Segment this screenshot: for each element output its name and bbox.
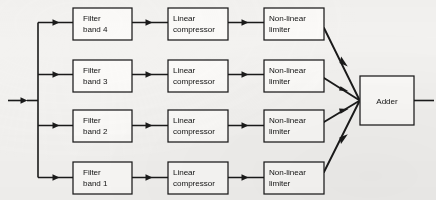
non-linear-limiter-1-label-line1: Non-linear (269, 168, 306, 177)
arrowhead-icon-row1-compressor-in (146, 174, 153, 180)
linear-compressor-3-label-line1: Linear (173, 66, 196, 75)
arrowhead-icon-row2-filter-in (53, 122, 60, 128)
filter-band-1-label-line1: Filter (83, 168, 101, 177)
arrowhead-icon-row3-compressor-in (146, 71, 153, 77)
block-filter-band-1[interactable]: Filter band 1 (73, 162, 132, 194)
block-filter-band-2[interactable]: Filter band 2 (73, 110, 132, 142)
linear-compressor-1-label-line2: compressor (173, 179, 215, 188)
arrowhead-icon-row4-adder-in (340, 56, 348, 66)
block-linear-compressor-4[interactable]: Linear compressor (168, 8, 228, 40)
arrowhead-icon-row2-compressor-in (146, 122, 153, 128)
input-signal-path (8, 23, 38, 178)
arrowhead-icon-row1-filter-in (53, 174, 60, 180)
linear-compressor-1-box[interactable] (168, 162, 228, 194)
filter-band-4-box[interactable] (73, 8, 132, 40)
linear-compressor-1-label-line1: Linear (173, 168, 196, 177)
linear-compressor-4-box[interactable] (168, 8, 228, 40)
filter-band-4-label-line2: band 4 (83, 25, 108, 34)
filter-band-3-box[interactable] (73, 60, 132, 92)
filter-band-3-label-line2: band 3 (83, 77, 108, 86)
linear-compressor-4-label-line2: compressor (173, 25, 215, 34)
block-diagram-svg: Filter band 4 Linear compressor Non-line… (0, 0, 436, 200)
linear-compressor-2-label-line2: compressor (173, 127, 215, 136)
filter-band-3-label-line1: Filter (83, 66, 101, 75)
block-non-linear-limiter-2[interactable]: Non-linear limiter (264, 110, 324, 142)
block-diagram-canvas: Filter band 4 Linear compressor Non-line… (0, 0, 436, 200)
block-non-linear-limiter-4[interactable]: Non-linear limiter (264, 8, 324, 40)
non-linear-limiter-3-label-line1: Non-linear (269, 66, 306, 75)
block-filter-band-4[interactable]: Filter band 4 (73, 8, 132, 40)
adder-label: Adder (376, 97, 398, 106)
arrowhead-icon-row4-limiter-in (242, 19, 249, 25)
arrowhead-icon-row2-limiter-in (242, 122, 249, 128)
arrowhead-icon-row4-filter-in (53, 19, 60, 25)
block-linear-compressor-1[interactable]: Linear compressor (168, 162, 228, 194)
block-filter-band-3[interactable]: Filter band 3 (73, 60, 132, 92)
non-linear-limiter-2-label-line1: Non-linear (269, 116, 306, 125)
filter-band-2-label-line1: Filter (83, 116, 101, 125)
filter-band-4-label-line1: Filter (83, 14, 101, 23)
linear-compressor-3-label-line2: compressor (173, 77, 215, 86)
arrowhead-icon-row1-adder-in (339, 134, 348, 144)
block-linear-compressor-3[interactable]: Linear compressor (168, 60, 228, 92)
non-linear-limiter-2-label-line2: limiter (269, 127, 291, 136)
linear-compressor-2-box[interactable] (168, 110, 228, 142)
non-linear-limiter-2-box[interactable] (264, 110, 324, 142)
input-arrowhead-icon (21, 97, 28, 103)
non-linear-limiter-3-box[interactable] (264, 60, 324, 92)
non-linear-limiter-4-label-line2: limiter (269, 25, 291, 34)
non-linear-limiter-1-box[interactable] (264, 162, 324, 194)
filter-band-2-box[interactable] (73, 110, 132, 142)
non-linear-limiter-4-label-line1: Non-linear (269, 14, 306, 23)
arrowhead-icon-row3-adder-in (339, 86, 349, 91)
arrowhead-icon-row3-limiter-in (242, 71, 249, 77)
block-linear-compressor-2[interactable]: Linear compressor (168, 110, 228, 142)
filter-band-1-box[interactable] (73, 162, 132, 194)
non-linear-limiter-4-box[interactable] (264, 8, 324, 40)
block-non-linear-limiter-1[interactable]: Non-linear limiter (264, 162, 324, 194)
non-linear-limiter-1-label-line2: limiter (269, 179, 291, 188)
arrowhead-icon-row3-filter-in (53, 71, 60, 77)
block-adder[interactable]: Adder (360, 76, 414, 125)
non-linear-limiter-3-label-line2: limiter (269, 77, 291, 86)
arrowhead-icon-row2-adder-in (339, 109, 349, 114)
arrowhead-icon-row1-limiter-in (242, 174, 249, 180)
linear-compressor-2-label-line1: Linear (173, 116, 196, 125)
block-non-linear-limiter-3[interactable]: Non-linear limiter (264, 60, 324, 92)
filter-band-1-label-line2: band 1 (83, 179, 108, 188)
filter-band-2-label-line2: band 2 (83, 127, 108, 136)
linear-compressor-4-label-line1: Linear (173, 14, 196, 23)
arrowhead-icon-row4-compressor-in (146, 19, 153, 25)
linear-compressor-3-box[interactable] (168, 60, 228, 92)
